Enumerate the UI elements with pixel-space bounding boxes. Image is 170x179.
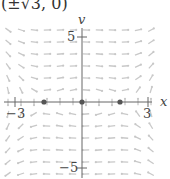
x-tick-label-pos: 3 xyxy=(143,106,151,121)
field-arrowhead xyxy=(152,74,154,76)
x-axis-label: x xyxy=(160,94,167,109)
field-arrowhead xyxy=(95,149,97,151)
field-arrowhead xyxy=(153,27,155,29)
field-arrowhead xyxy=(134,160,136,162)
field-arrowhead xyxy=(140,40,142,42)
field-arrowhead xyxy=(134,123,136,125)
field-arrowhead xyxy=(49,65,51,67)
field-arrowhead xyxy=(43,125,45,127)
field-arrowhead xyxy=(8,80,10,82)
field-arrowhead xyxy=(62,65,64,67)
field-arrowhead xyxy=(127,77,129,79)
field-arrowhead xyxy=(69,125,71,127)
field-arrowhead xyxy=(43,173,45,175)
field-arrowhead xyxy=(62,41,64,43)
field-arrowhead xyxy=(5,151,7,153)
field-arrowhead xyxy=(62,76,64,78)
field-arrowhead xyxy=(95,173,97,175)
field-arrowhead xyxy=(75,53,77,55)
field-arrowhead xyxy=(85,104,87,106)
field-arrowhead xyxy=(17,162,19,164)
field-arrowhead xyxy=(17,174,19,176)
field-arrowhead xyxy=(134,136,136,138)
field-arrowhead xyxy=(101,77,103,79)
field-arrowhead xyxy=(9,55,11,57)
field-arrowhead xyxy=(17,139,19,141)
field-arrowhead xyxy=(111,104,113,106)
field-arrowhead xyxy=(43,149,45,151)
field-arrowhead xyxy=(148,122,150,124)
equilibrium-point-pos-sqrt3 xyxy=(117,99,122,104)
field-arrowhead xyxy=(134,172,136,174)
v-axis-label: v xyxy=(78,12,85,27)
field-arrowhead xyxy=(23,67,25,69)
field-arrowhead xyxy=(59,98,61,100)
field-arrowhead xyxy=(62,29,64,31)
field-arrowhead xyxy=(33,104,35,106)
field-arrowhead xyxy=(121,137,123,139)
field-arrowhead xyxy=(108,137,110,139)
field-arrowhead xyxy=(153,39,155,41)
field-arrowhead xyxy=(17,150,19,152)
field-arrowhead xyxy=(140,64,142,66)
field-arrowhead xyxy=(36,41,38,43)
field-arrowhead xyxy=(121,149,123,151)
field-arrowhead xyxy=(30,173,32,175)
field-arrowhead xyxy=(147,147,149,149)
field-arrowhead xyxy=(46,98,48,100)
field-arrowhead xyxy=(75,29,77,31)
field-arrowhead xyxy=(114,53,116,55)
field-arrowhead xyxy=(56,124,58,126)
field-arrowhead xyxy=(30,161,32,163)
field-arrowhead xyxy=(101,41,103,43)
field-arrowhead xyxy=(30,138,32,140)
field-arrowhead xyxy=(5,140,7,142)
field-arrowhead xyxy=(148,135,150,137)
field-arrowhead xyxy=(75,41,77,43)
v-tick-label-neg: −5 xyxy=(59,160,78,175)
field-arrowhead xyxy=(152,63,154,65)
field-arrowhead xyxy=(88,89,90,91)
field-arrowhead xyxy=(147,159,149,161)
field-arrowhead xyxy=(114,90,116,92)
field-arrowhead xyxy=(36,90,38,92)
field-arrowhead xyxy=(21,92,23,94)
field-arrowhead xyxy=(72,98,74,100)
field-arrowhead xyxy=(108,125,110,127)
phase-portrait-figure: (±√3, 0) v x −3 3 5 −5 xyxy=(0,0,170,179)
field-arrowhead xyxy=(30,126,32,128)
field-arrowhead xyxy=(121,112,123,114)
field-arrowhead xyxy=(114,29,116,31)
equilibrium-point-origin xyxy=(79,99,84,104)
field-arrowhead xyxy=(95,161,97,163)
field-arrowhead xyxy=(30,114,32,116)
field-arrowhead xyxy=(9,43,11,45)
field-arrowhead xyxy=(4,175,6,177)
field-arrowhead xyxy=(108,114,110,116)
field-arrowhead xyxy=(69,137,71,139)
field-arrowhead xyxy=(147,171,149,173)
field-arrowhead xyxy=(101,53,103,55)
field-arrowhead xyxy=(108,161,110,163)
field-arrowhead xyxy=(56,112,58,114)
field-arrowhead xyxy=(49,88,51,90)
field-arrowhead xyxy=(36,66,38,68)
field-arrowhead xyxy=(23,42,25,44)
field-arrowhead xyxy=(62,88,64,90)
field-arrowhead xyxy=(88,77,90,79)
field-arrowhead xyxy=(134,148,136,150)
field-arrowhead xyxy=(101,29,103,31)
field-arrowhead xyxy=(95,137,97,139)
field-arrowhead xyxy=(69,149,71,151)
field-arrowhead xyxy=(6,128,8,130)
field-arrowhead xyxy=(4,163,6,165)
field-arrowhead xyxy=(152,51,154,53)
field-arrowhead xyxy=(56,161,58,163)
field-arrowhead xyxy=(121,173,123,175)
field-arrowhead xyxy=(121,125,123,127)
field-arrowhead xyxy=(18,127,20,129)
field-arrowhead xyxy=(75,88,77,90)
field-arrowhead xyxy=(56,137,58,139)
field-arrowhead xyxy=(62,53,64,55)
field-arrowhead xyxy=(151,86,153,88)
